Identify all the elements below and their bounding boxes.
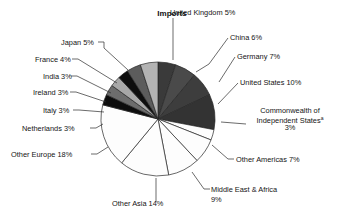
slice-label-india: India 3% bbox=[43, 72, 72, 81]
leader-line-germany bbox=[219, 57, 235, 82]
slice-label-france: France 4% bbox=[35, 55, 71, 64]
leader-line-united-states bbox=[218, 83, 238, 104]
slice-label-middle-east-africa: Middle East & Africa9% bbox=[211, 185, 278, 204]
leader-line-italy bbox=[73, 110, 104, 112]
slice-label-ireland: Ireland 3% bbox=[33, 88, 69, 97]
slice-label-japan: Japan 5% bbox=[61, 38, 94, 47]
pie-wedges-group bbox=[101, 62, 215, 176]
slice-label-other-europe: Other Europe 18% bbox=[11, 150, 73, 159]
slice-label-commonwealth-of-independent-states: Commonwealth ofIndependent Statesa3% bbox=[257, 106, 324, 132]
slice-label-united-states: United States 10% bbox=[240, 78, 302, 87]
leader-line-china bbox=[196, 38, 228, 72]
slice-label-other-asia: Other Asia 14% bbox=[112, 199, 164, 208]
leader-line-france bbox=[72, 59, 117, 83]
slice-label-italy: Italy 3% bbox=[43, 106, 70, 115]
leader-line-middle-east-africa bbox=[192, 172, 210, 189]
leader-line-ireland bbox=[70, 92, 106, 102]
slice-label-other-americas: Other Americas 7% bbox=[236, 155, 300, 164]
slice-label-netherlands: Netherlands 3% bbox=[22, 124, 75, 133]
leader-line-india bbox=[71, 76, 111, 93]
pie-chart-figure: Imports United Kingdom 5%China 6%Germany… bbox=[0, 0, 344, 220]
slice-label-germany: Germany 7% bbox=[237, 52, 281, 61]
leader-line-japan bbox=[98, 42, 128, 70]
leader-line-commonwealth-of-independent-states bbox=[221, 122, 246, 124]
pie-chart-svg: Imports United Kingdom 5%China 6%Germany… bbox=[0, 0, 344, 220]
slice-label-china: China 6% bbox=[230, 33, 262, 42]
slice-label-united-kingdom: United Kingdom 5% bbox=[170, 8, 236, 17]
leader-line-other-europe bbox=[91, 147, 108, 154]
leader-line-other-americas bbox=[212, 145, 234, 159]
